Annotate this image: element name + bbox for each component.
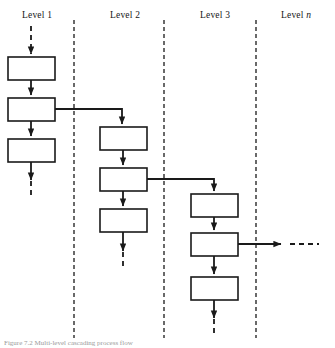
header-level-1-value: 1 (47, 10, 52, 20)
level-3-box-1 (191, 194, 238, 217)
level-2-box-3 (100, 209, 147, 232)
branch-level-2-to-level-3 (147, 179, 214, 191)
level-1-box-1 (8, 57, 55, 80)
diagram-canvas: Level 1 Level 2 Level 3 Level n (0, 0, 335, 348)
level-1-box-3 (8, 139, 55, 162)
header-level-n-label: Level (281, 10, 304, 20)
level-3-box-3 (191, 277, 238, 300)
level-2-box-2 (100, 168, 147, 191)
header-level-2-label: Level (110, 10, 133, 20)
header-level-n-value: n (306, 10, 311, 20)
header-level-3-label: Level (200, 10, 223, 20)
level-3-box-2 (191, 233, 238, 256)
flow-diagram (0, 0, 335, 348)
header-level-3-value: 3 (225, 10, 230, 20)
level-2-box-1 (100, 127, 147, 150)
header-level-1-label: Level (22, 10, 45, 20)
branch-level-1-to-level-2 (55, 109, 122, 124)
header-level-3: Level 3 (200, 10, 230, 21)
figure-caption: Figure 7.2 Multi-level cascading process… (4, 339, 304, 348)
level-1-box-2 (8, 98, 55, 121)
header-level-2: Level 2 (110, 10, 140, 21)
header-level-1: Level 1 (22, 10, 52, 21)
header-level-n: Level n (281, 10, 311, 21)
header-level-2-value: 2 (135, 10, 140, 20)
